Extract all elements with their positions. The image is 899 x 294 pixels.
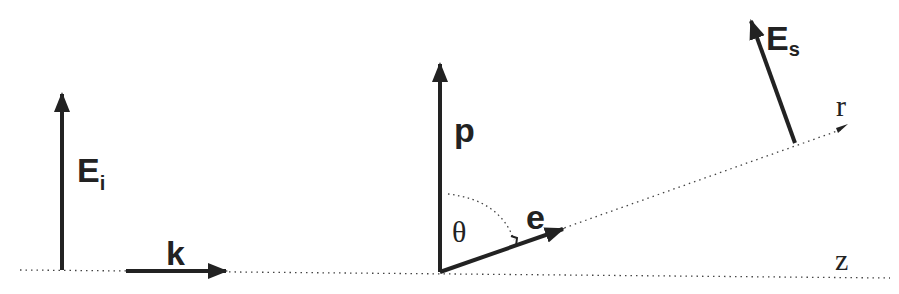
scattering-diagram: Ei k p θ e Es r z xyxy=(0,0,899,294)
unit-vector-label: e xyxy=(526,198,545,236)
r-axis-label: r xyxy=(836,89,846,122)
diagram-svg: Ei k p θ e Es r z xyxy=(0,0,899,294)
wave-vector-label: k xyxy=(166,234,185,272)
dipole-label: p xyxy=(454,111,475,149)
incident-field-label: Ei xyxy=(77,151,105,194)
z-axis-label: z xyxy=(835,243,848,276)
angle-label: θ xyxy=(452,215,466,248)
r-axis-arrowhead-icon xyxy=(836,124,848,133)
scattered-field-label: Es xyxy=(766,19,800,60)
